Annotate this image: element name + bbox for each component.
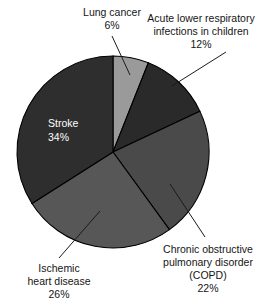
label-lung-cancer-name: Lung cancer: [83, 6, 141, 18]
label-ischemic-line1: Ischemic: [38, 262, 79, 274]
label-acute-lri-line1: Acute lower respiratory: [147, 12, 255, 24]
label-copd-line2: pulmonary disorder: [163, 256, 253, 268]
label-acute-lri-line2: infections in children: [153, 25, 248, 37]
pie-slices: [17, 56, 209, 248]
label-copd-value: 22%: [197, 282, 218, 294]
label-copd-line1: Chronic obstructive: [163, 243, 253, 255]
label-lung-cancer-value: 6%: [104, 19, 119, 31]
label-stroke-value: 34%: [48, 131, 69, 143]
label-ischemic-line2: heart disease: [27, 275, 90, 287]
label-stroke-name: Stroke: [48, 117, 79, 129]
label-ischemic-value: 26%: [48, 288, 69, 300]
label-copd-line3: (COPD): [189, 269, 226, 281]
pie-chart-svg: Lung cancer 6% Acute lower respiratory i…: [0, 0, 279, 307]
pie-chart-figure: Lung cancer 6% Acute lower respiratory i…: [0, 0, 279, 307]
label-acute-lri-value: 12%: [190, 38, 211, 50]
